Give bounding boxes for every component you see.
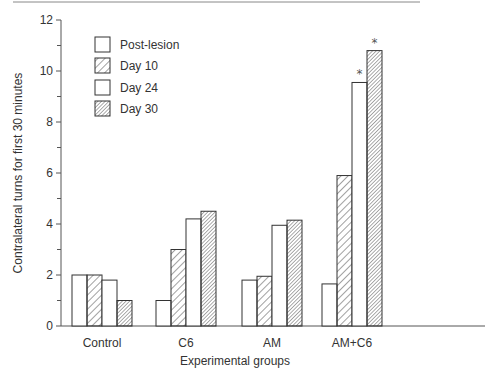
bar-post-lesion: [322, 284, 337, 326]
bar-post-lesion: [72, 275, 87, 326]
x-category-label: C6: [178, 336, 194, 350]
legend-item: Day 30: [95, 101, 158, 116]
x-category-label: AM+C6: [332, 336, 373, 350]
y-tick-label: 4: [46, 217, 53, 231]
bar-group-am-c6: AM+C6: [322, 51, 382, 350]
bar-day-10: [337, 176, 352, 326]
legend-swatch: [95, 58, 110, 73]
y-tick-label: 6: [46, 166, 53, 180]
y-tick-label: 8: [46, 115, 53, 129]
bar-day-24: [102, 280, 117, 326]
bar-post-lesion: [242, 280, 257, 326]
bar-group-control: Control: [72, 275, 132, 350]
bar-day-24: [352, 82, 367, 326]
bars: ControlC6AMAM+C6**: [72, 36, 382, 350]
bar-day-24: [272, 225, 287, 326]
bar-day-30: [367, 51, 382, 326]
legend-label: Day 10: [120, 59, 158, 73]
significance-asterisk: *: [357, 67, 363, 81]
legend-swatch: [95, 101, 110, 116]
legend-swatch: [95, 80, 110, 95]
bar-chart: 024681012 ControlC6AMAM+C6** Post-lesion…: [0, 0, 485, 378]
y-tick-label: 2: [46, 268, 53, 282]
bar-day-30: [201, 211, 216, 326]
significance-asterisk: *: [372, 36, 378, 50]
legend-label: Post-lesion: [120, 38, 179, 52]
bar-day-10: [257, 276, 272, 326]
legend-item: Day 24: [95, 80, 158, 95]
legend-label: Day 30: [120, 102, 158, 116]
bar-group-c6: C6: [156, 211, 216, 350]
bar-day-30: [117, 301, 132, 327]
y-axis-title: Contralateral turns for first 30 minutes: [11, 73, 25, 274]
bar-day-30: [287, 220, 302, 326]
y-tick-label: 0: [46, 319, 53, 333]
bar-day-24: [186, 219, 201, 326]
legend-item: Day 10: [95, 58, 158, 73]
legend-label: Day 24: [120, 81, 158, 95]
x-axis-title: Experimental groups: [180, 354, 290, 368]
bar-group-am: AM: [242, 220, 302, 350]
legend-item: Post-lesion: [95, 37, 179, 52]
bar-day-10: [171, 250, 186, 327]
legend: Post-lesionDay 10Day 24Day 30: [95, 37, 179, 116]
y-tick-label: 10: [40, 64, 54, 78]
y-axis: 024681012: [40, 13, 61, 333]
bar-post-lesion: [156, 301, 171, 327]
x-category-label: Control: [83, 336, 122, 350]
y-tick-label: 12: [40, 13, 54, 27]
bar-day-10: [87, 275, 102, 326]
legend-swatch: [95, 37, 110, 52]
x-category-label: AM: [263, 336, 281, 350]
